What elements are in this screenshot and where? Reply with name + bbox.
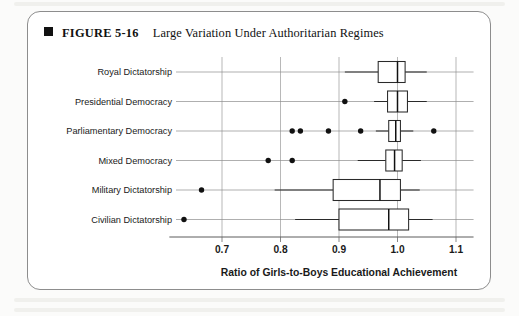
category-rules [176,72,474,220]
x-tick-label-0.9: 0.9 [332,244,346,255]
x-axis-title: Ratio of Girls-to-Boys Educational Achie… [221,267,458,278]
outlier-point [358,128,363,133]
chart-canvas: Royal DictatorshipPresidential Democracy… [0,0,519,316]
outlier-point [181,217,186,222]
category-labels: Royal DictatorshipPresidential Democracy… [66,67,172,225]
outlier-point [342,99,347,104]
box-royal-dictatorship [345,62,427,83]
outlier-point [290,158,295,163]
x-tick-labels: 0.70.80.91.01.1 [215,244,463,255]
outlier-point [199,187,204,192]
x-tick-label-1.1: 1.1 [449,244,463,255]
x-tick-label-1.0: 1.0 [390,244,404,255]
category-label-royal-dictatorship: Royal Dictatorship [97,67,172,77]
outlier-point [298,128,303,133]
outlier-point [326,128,331,133]
x-tick-label-0.7: 0.7 [215,244,229,255]
box-series [181,62,436,231]
category-label-parliamentary-democracy: Parliamentary Democracy [66,126,172,136]
outlier-point [431,128,436,133]
category-label-presidential-democracy: Presidential Democracy [75,97,172,107]
box-plot-chart: Royal DictatorshipPresidential Democracy… [0,0,519,316]
outlier-point [290,128,295,133]
category-label-mixed-democracy: Mixed Democracy [98,156,172,166]
x-axis [169,237,473,242]
category-label-civilian-dictatorship: Civilian Dictatorship [91,215,172,225]
x-tick-label-0.8: 0.8 [273,244,287,255]
category-label-military-dictatorship: Military Dictatorship [92,185,172,195]
outlier-point [266,158,271,163]
